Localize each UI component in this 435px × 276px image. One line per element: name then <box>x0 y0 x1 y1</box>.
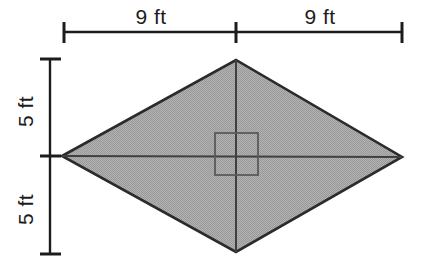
dimension-label-top-right: 9 ft <box>285 6 355 27</box>
horizontal-diagonal <box>62 156 402 157</box>
left-dimension-line <box>40 58 61 255</box>
figure-canvas <box>0 0 435 276</box>
dimension-label-top-left: 9 ft <box>116 6 186 27</box>
dimension-label-left-lower: 5 ft <box>15 175 36 245</box>
dimension-label-left-upper: 5 ft <box>15 77 36 147</box>
rhombus-figure: 9 ft 9 ft 5 ft 5 ft <box>0 0 435 276</box>
